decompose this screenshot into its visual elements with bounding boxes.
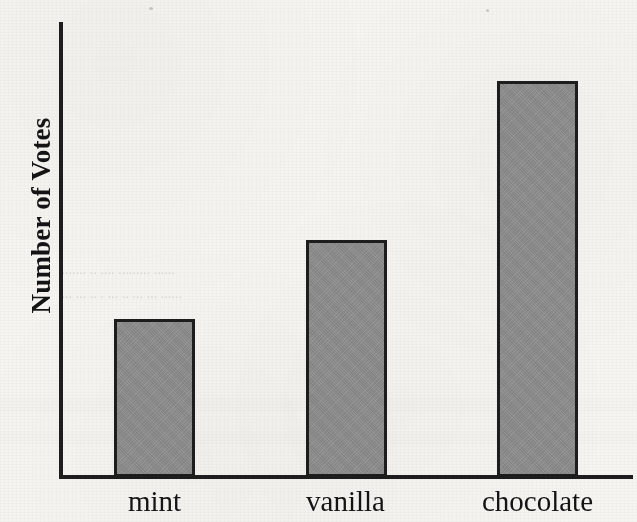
x-tick-label-chocolate: chocolate (442, 484, 633, 518)
scan-speck (486, 9, 489, 12)
x-tick-label-vanilla: vanilla (250, 484, 441, 518)
ghost-text-line-1: ........ .. .... ......... ...... (58, 262, 175, 278)
y-axis-line (59, 22, 63, 479)
bar-chocolate (497, 81, 578, 477)
bar-chart-figure: ........ .. .... ......... ...... .... .… (0, 0, 637, 522)
ghost-text-line-2: .... ... .. . ... .. ... ... ...... (58, 286, 182, 302)
x-tick-label-mint: mint (59, 484, 250, 518)
bar-mint (114, 319, 195, 477)
y-axis-title: Number of Votes (26, 106, 57, 326)
scan-speck (149, 7, 153, 10)
bar-vanilla (306, 240, 387, 477)
